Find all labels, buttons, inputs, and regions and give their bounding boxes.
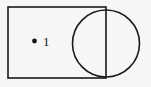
- figure-canvas: 1: [0, 0, 151, 87]
- point-marker-dot: [32, 39, 37, 44]
- point-label-1: 1: [43, 34, 50, 49]
- geometry-diagram: 1: [0, 0, 151, 87]
- rectangle-shape: [8, 7, 106, 78]
